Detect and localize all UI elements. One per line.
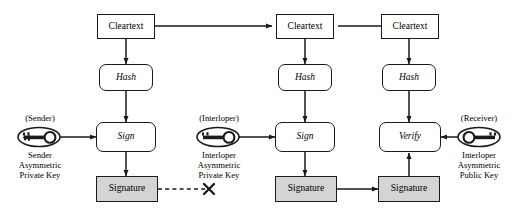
key-role-label-sender: (Sender) [0,113,80,123]
key-description-line: Interloper [179,150,259,160]
key-description-line: Asymmetric [439,160,519,170]
key-role-label-interloper: (Interloper) [179,113,259,123]
node-label: Hash [399,73,419,83]
node-label: Verify [399,132,421,142]
node-cleartext-interloper[interactable]: Cleartext [276,14,334,39]
node-label: Cleartext [109,22,144,32]
key-description-sender: Sender Asymmetric Private Key [0,150,80,180]
key-icon-sender [18,128,60,147]
key-icon-receiver [458,128,500,147]
key-role-label-receiver: (Receiver) [439,113,519,123]
node-label: Hash [116,73,136,83]
key-description-line: Private Key [0,170,80,180]
key-description-line: Asymmetric [179,160,259,170]
key-description-line: Public Key [439,170,519,180]
node-sign-interloper[interactable]: Sign [275,122,335,152]
node-cleartext-sender[interactable]: Cleartext [97,14,155,39]
key-description-line: Private Key [179,170,259,180]
connector-signature-1-blocked [158,184,214,194]
key-icon-interloper [197,128,239,147]
node-hash-sender[interactable]: Hash [99,64,153,91]
node-sign-sender[interactable]: Sign [96,122,156,152]
node-cleartext-receiver[interactable]: Cleartext [381,14,439,39]
key-description-line: Asymmetric [0,160,80,170]
key-description-line: Interloper [439,150,519,160]
x-mark-icon [204,184,214,194]
node-label: Cleartext [288,22,323,32]
node-label: Hash [295,73,315,83]
node-hash-interloper[interactable]: Hash [278,64,332,91]
node-label: Cleartext [393,22,428,32]
signature-flow-diagram: Cleartext Hash Sign Signature (Sender) S… [0,0,519,212]
node-label: Signature [391,184,427,194]
node-signature-interloper[interactable]: Signature [275,176,337,202]
node-label: Sign [118,132,135,142]
node-signature-receiver[interactable]: Signature [378,176,440,202]
key-description-receiver: Interloper Asymmetric Public Key [439,150,519,180]
node-signature-sender[interactable]: Signature [96,176,158,202]
node-label: Signature [288,184,324,194]
node-hash-receiver[interactable]: Hash [382,64,436,91]
node-verify-receiver[interactable]: Verify [379,122,441,152]
key-description-line: Sender [0,150,80,160]
node-label: Sign [297,132,314,142]
key-description-interloper: Interloper Asymmetric Private Key [179,150,259,180]
node-label: Signature [109,184,145,194]
